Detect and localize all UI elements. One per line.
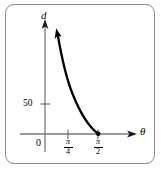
pi-over-2-denominator: 2 [90,148,106,156]
pi-over-4-numerator: π [60,138,76,146]
x-tick-label-pi-over-4: π 4 [60,138,76,157]
y-tick-label-50: 50 [23,99,33,109]
y-axis-label: d [41,10,47,21]
plot-canvas [0,0,161,170]
pi-over-2-numerator: π [90,138,106,146]
data-curve [58,34,99,134]
x-axis-label: θ [140,126,145,137]
pi-over-4-denominator: 4 [60,148,76,156]
x-tick-label-pi-over-2: π 2 [90,138,106,157]
figure-root: d θ 50 0 π 4 π 2 [0,0,161,170]
curve-endpoint-dot [96,132,101,137]
origin-label: 0 [36,138,41,148]
